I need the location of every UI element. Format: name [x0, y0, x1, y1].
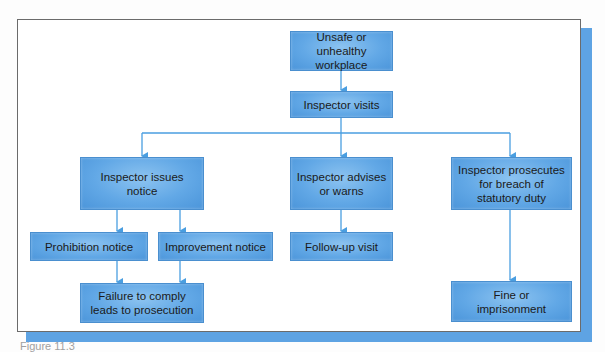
node-fine-or-imprisonment: Fine or imprisonment — [451, 281, 572, 322]
node-prohibition-notice: Prohibition notice — [30, 232, 148, 261]
node-improvement-notice: Improvement notice — [158, 232, 273, 261]
figure-caption: Figure 11.3 — [20, 340, 75, 352]
node-inspector-prosecutes: Inspector prosecutes for breach of statu… — [451, 157, 572, 210]
node-failure-to-comply: Failure to comply leads to prosecution — [80, 283, 204, 323]
node-follow-up-visit: Follow-up visit — [290, 232, 393, 261]
node-inspector-advises: Inspector advises or warns — [290, 157, 393, 210]
node-unsafe-workplace: Unsafe or unhealthy workplace — [290, 31, 393, 71]
node-inspector-visits: Inspector visits — [290, 91, 393, 118]
node-inspector-issues-notice: Inspector issues notice — [80, 157, 204, 210]
